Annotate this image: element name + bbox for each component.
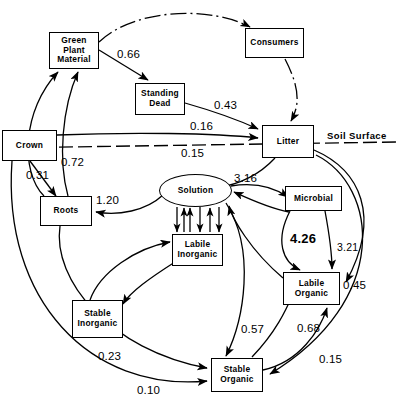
node-solution[interactable]: Solution <box>159 174 232 207</box>
node-label: Solution <box>178 186 214 196</box>
flow-label-3.21: 3.21 <box>337 241 358 253</box>
node-standing-dead[interactable]: Standing Dead <box>135 83 185 115</box>
edge-crown-to-litter <box>57 133 258 138</box>
flow-label-0.31: 0.31 <box>26 169 49 181</box>
flow-label-0.10: 0.10 <box>137 384 160 396</box>
edge-stable-organic-to-labile-organic-2 <box>263 308 327 370</box>
node-label: Stable Organic <box>220 365 253 385</box>
node-label: Microbial <box>294 194 333 204</box>
node-label: Roots <box>54 206 79 216</box>
flow-label-3.16: 3.16 <box>234 172 257 184</box>
flow-label-0.72: 0.72 <box>61 156 84 168</box>
flow-label-0.68: 0.68 <box>297 322 320 334</box>
diagram-canvas: Green Plant Material Consumers Standing … <box>0 0 396 401</box>
edge-labile-organic-to-solution <box>229 206 283 278</box>
node-label: Standing Dead <box>141 89 179 109</box>
node-consumers[interactable]: Consumers <box>245 28 304 58</box>
edge-microbial-to-labile-organic-321 <box>325 211 332 269</box>
node-roots[interactable]: Roots <box>40 196 92 226</box>
soil-surface-label: Soil Surface <box>327 130 387 141</box>
edge-microbial-to-solution <box>234 192 289 212</box>
node-labile-organic[interactable]: Labile Organic <box>283 272 340 305</box>
flow-label-0.23: 0.23 <box>98 350 121 362</box>
node-label: Labile Organic <box>295 279 328 299</box>
node-label: Litter <box>277 137 299 147</box>
node-label: Green Plant Material <box>57 36 91 66</box>
node-litter[interactable]: Litter <box>262 125 314 158</box>
flow-label-4.26: 4.26 <box>290 231 316 246</box>
node-labile-inorganic[interactable]: Labile Inorganic <box>172 234 223 266</box>
edge-consumers-to-litter <box>285 59 297 121</box>
flow-label-0.15-bottom: 0.15 <box>319 353 342 365</box>
node-crown[interactable]: Crown <box>2 130 57 161</box>
flow-label-0.16: 0.16 <box>190 120 213 132</box>
node-stable-inorganic[interactable]: Stable Inorganic <box>72 300 123 338</box>
node-label: Crown <box>16 141 43 151</box>
node-label: Stable Inorganic <box>78 309 118 329</box>
edge-stable-inorg-to-labile-inorg <box>90 242 170 300</box>
edge-gpm-to-consumers <box>99 13 250 42</box>
node-label: Labile Inorganic <box>178 240 218 260</box>
edge-litter-to-labile-organic <box>314 150 364 282</box>
flow-label-0.45: 0.45 <box>343 279 366 291</box>
edge-labile-inorg-to-stable-inorg <box>123 262 175 304</box>
flow-label-0.66: 0.66 <box>117 48 140 60</box>
node-microbial[interactable]: Microbial <box>285 186 342 211</box>
flow-label-0.57: 0.57 <box>241 323 264 335</box>
node-stable-organic[interactable]: Stable Organic <box>211 358 263 392</box>
flow-label-1.20: 1.20 <box>96 194 119 206</box>
flow-label-0.15-litter-solution: 0.15 <box>181 147 204 159</box>
flow-label-0.43: 0.43 <box>214 99 237 111</box>
node-green-plant-material[interactable]: Green Plant Material <box>49 32 99 69</box>
node-label: Consumers <box>250 38 298 48</box>
